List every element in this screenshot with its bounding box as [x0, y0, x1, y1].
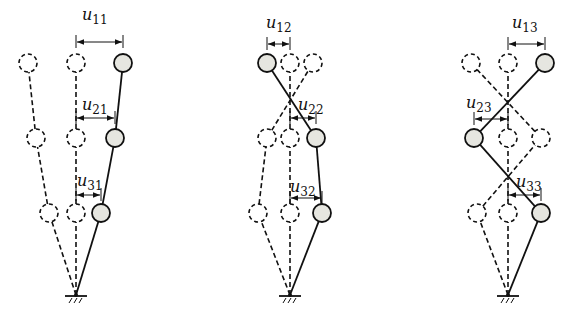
displacement-label-u13: u13 [512, 13, 538, 35]
mass-node [465, 129, 483, 147]
displacement-label-u11: u11 [82, 5, 108, 27]
displacement-label-u33: u33 [516, 172, 542, 194]
mode-1-figure: u11u21u31 [19, 5, 132, 303]
ground-hatch [288, 298, 291, 303]
ground-hatch [283, 298, 286, 303]
alt-mode-node [304, 54, 322, 72]
ground-hatch [79, 298, 82, 303]
ground-hatch [511, 298, 514, 303]
mass-node [307, 129, 325, 147]
alt-mode-node [462, 54, 480, 72]
mass-node [532, 204, 550, 222]
mode-shape-member [103, 147, 114, 204]
displacement-label-u21: u21 [82, 95, 108, 117]
displacement-label-u23: u23 [466, 93, 492, 115]
mode-shape-member [290, 221, 319, 295]
alt-mode-member [52, 222, 76, 295]
alt-mode-node [19, 54, 37, 72]
alt-mode-node [40, 204, 58, 222]
undeformed-node [499, 129, 517, 147]
undeformed-node [67, 54, 85, 72]
mode-shape-member [76, 222, 98, 295]
undeformed-node [281, 204, 299, 222]
ground-hatch [501, 298, 504, 303]
mass-node [114, 54, 132, 72]
displacement-label-u32: u32 [290, 177, 316, 199]
alt-mode-member [261, 221, 290, 295]
mode-shape-member [116, 72, 122, 129]
mode-3-figure: u13u23u33 [462, 13, 554, 303]
alt-mode-node [532, 129, 550, 147]
displacement-label-u12: u12 [266, 13, 292, 35]
mode-shape-member [317, 147, 322, 204]
alt-mode-member [38, 147, 48, 204]
displacement-label-u31: u31 [77, 171, 103, 193]
alt-mode-node [249, 204, 267, 222]
mode-2-figure: u12u22u32 [249, 13, 331, 303]
mass-node [92, 204, 110, 222]
undeformed-node [67, 204, 85, 222]
mass-node [106, 129, 124, 147]
alt-mode-node [27, 129, 45, 147]
ground-hatch [69, 298, 72, 303]
undeformed-node [499, 54, 517, 72]
alt-mode-member [480, 221, 508, 295]
displacement-label-u22: u22 [298, 95, 324, 117]
undeformed-node [281, 129, 299, 147]
mass-node [313, 204, 331, 222]
ground-hatch [506, 298, 509, 303]
alt-mode-node [258, 129, 276, 147]
ground-hatch [74, 298, 77, 303]
ground-hatch [293, 298, 296, 303]
alt-mode-member [29, 72, 35, 129]
undeformed-node [281, 54, 299, 72]
undeformed-node [67, 129, 85, 147]
alt-mode-member [259, 147, 266, 204]
mode-shape-member [508, 221, 538, 295]
mass-node [258, 54, 276, 72]
alt-mode-node [468, 204, 486, 222]
mode-shapes-diagram: u11u21u31u12u22u32u13u23u33 [0, 0, 578, 320]
undeformed-node [499, 204, 517, 222]
mass-node [536, 54, 554, 72]
